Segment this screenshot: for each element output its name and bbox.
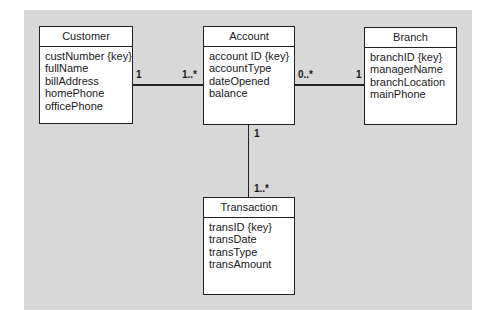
class-account: Account account ID {key} accountType dat… <box>203 26 295 125</box>
attribute: transID {key} <box>209 221 294 233</box>
attribute: managerName <box>370 63 456 75</box>
attribute: mainPhone <box>370 88 456 100</box>
association-account-transaction <box>248 124 250 198</box>
attribute: homePhone <box>45 87 132 99</box>
class-name: Branch <box>365 28 456 48</box>
attribute: fullName <box>45 62 132 74</box>
class-customer: Customer custNumber {key} fullName billA… <box>39 26 133 124</box>
multiplicity-customer-side: 1 <box>136 70 142 80</box>
attribute: balance <box>209 87 294 99</box>
multiplicity-account-side-transaction: 1 <box>254 129 260 139</box>
multiplicity-branch-side: 1 <box>356 70 362 80</box>
class-name: Account <box>204 27 294 47</box>
attribute: transAmount <box>209 258 294 270</box>
attribute: dateOpened <box>209 75 294 87</box>
multiplicity-account-side-customer: 1..* <box>182 70 197 80</box>
class-branch: Branch branchID {key} managerName branch… <box>364 27 457 125</box>
class-name: Transaction <box>204 198 294 218</box>
class-attributes: account ID {key} accountType dateOpened … <box>204 47 294 100</box>
attribute: billAddress <box>45 75 132 87</box>
attribute: branchID {key} <box>370 51 456 63</box>
attribute: account ID {key} <box>209 50 294 62</box>
attribute: branchLocation <box>370 76 456 88</box>
attribute: accountType <box>209 62 294 74</box>
class-transaction: Transaction transID {key} transDate tran… <box>203 197 295 295</box>
association-account-branch <box>293 84 365 86</box>
attribute: transDate <box>209 233 294 245</box>
multiplicity-account-side-branch: 0..* <box>298 70 313 80</box>
class-attributes: branchID {key} managerName branchLocatio… <box>365 48 456 101</box>
class-name: Customer <box>40 27 132 47</box>
class-attributes: transID {key} transDate transType transA… <box>204 218 294 271</box>
multiplicity-transaction-side: 1..* <box>254 184 269 194</box>
association-customer-account <box>132 84 204 86</box>
class-attributes: custNumber {key} fullName billAddress ho… <box>40 47 132 112</box>
attribute: custNumber {key} <box>45 50 132 62</box>
attribute: transType <box>209 246 294 258</box>
attribute: officePhone <box>45 100 132 112</box>
